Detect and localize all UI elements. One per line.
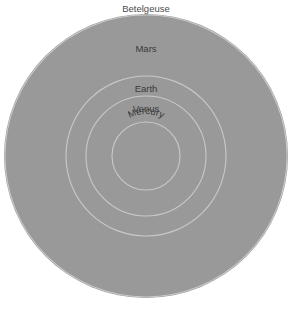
concentric-orbits-diagram: Betelgeuse Mars Earth Venus Mercury (0, 0, 292, 319)
label-earth: Earth (135, 83, 158, 94)
label-mars: Mars (135, 43, 156, 54)
label-betelgeuse: Betelgeuse (122, 3, 170, 14)
diagram-canvas: Betelgeuse Mars Earth Venus Mercury (0, 0, 292, 319)
